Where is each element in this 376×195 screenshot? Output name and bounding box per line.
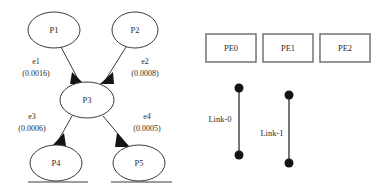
edge-e2-label-group: e2 (0.0008): [131, 57, 159, 78]
link-1[interactable]: Link-1: [260, 91, 293, 168]
pe-box-pe1[interactable]: PE1: [263, 34, 313, 62]
pe-box-pe0[interactable]: PE0: [206, 34, 256, 62]
edge-e4: [103, 116, 130, 147]
edge-e1-label-group: e1 (0.0016): [22, 57, 50, 78]
node-p3[interactable]: P3: [60, 82, 114, 118]
node-p5[interactable]: P5: [111, 145, 172, 182]
link-0-top-terminal: [235, 84, 244, 93]
link-1-bottom-terminal: [285, 159, 294, 168]
edge-e2-arrowhead: [100, 72, 114, 84]
link-0-label: Link-0: [208, 114, 231, 124]
edge-e3-name: e3: [28, 112, 36, 121]
edge-e1-name: e1: [32, 57, 40, 66]
edge-e3-arrowhead: [52, 133, 66, 146]
edge-e2-line: [106, 47, 126, 79]
task-graph: P1 P2 P3 P4 P5: [18, 12, 172, 182]
node-p4-label: P4: [52, 158, 62, 168]
pe-box-pe0-label: PE0: [224, 43, 238, 53]
link-0[interactable]: Link-0: [208, 84, 243, 160]
edge-e1-weight: (0.0016): [22, 69, 50, 78]
pe-box-pe1-label: PE1: [281, 43, 295, 53]
architecture-graph: PE0 PE1 PE2 Link-0: [206, 34, 370, 168]
edge-e4-name: e4: [143, 112, 151, 121]
edge-e1-line: [61, 47, 78, 79]
figure-canvas: P1 P2 P3 P4 P5: [0, 0, 376, 195]
link-0-bottom-terminal: [235, 151, 244, 160]
node-p2[interactable]: P2: [112, 12, 158, 48]
figure-container: P1 P2 P3 P4 P5: [0, 0, 376, 195]
edge-e2: [100, 47, 126, 84]
edge-e1: [61, 47, 84, 84]
edge-e3-weight: (0.0006): [18, 124, 46, 133]
node-p5-label: P5: [135, 158, 144, 168]
edge-e4-label-group: e4 (0.0005): [133, 112, 161, 133]
edge-e3: [52, 116, 72, 146]
node-p3-label: P3: [83, 95, 92, 105]
edge-e2-weight: (0.0008): [131, 69, 159, 78]
edge-e4-arrowhead: [115, 133, 130, 147]
edge-e3-label-group: e3 (0.0006): [18, 112, 46, 133]
node-p4[interactable]: P4: [28, 145, 88, 182]
node-p1-label: P1: [50, 25, 59, 35]
node-p1[interactable]: P1: [28, 12, 80, 48]
edge-e2-name: e2: [141, 57, 149, 66]
link-1-label: Link-1: [260, 128, 283, 138]
node-p2-label: P2: [131, 25, 140, 35]
pe-box-pe2-label: PE2: [338, 43, 352, 53]
pe-box-pe2[interactable]: PE2: [320, 34, 370, 62]
link-1-top-terminal: [285, 91, 294, 100]
edge-e4-weight: (0.0005): [133, 124, 161, 133]
